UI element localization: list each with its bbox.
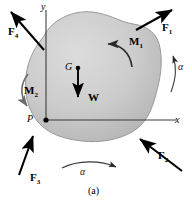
weight-label-W: W (88, 92, 99, 103)
force-vector-F3 (19, 136, 33, 175)
force-label-F4: F4 (8, 26, 18, 40)
origin-label-P: P (27, 114, 33, 124)
moment-label-M1: M1 (129, 36, 143, 50)
origin-point-P (43, 117, 48, 122)
force-label-F2: F2 (158, 150, 168, 164)
angular-acceleration-arc-right (171, 56, 175, 92)
force-label-F3: F3 (30, 172, 40, 186)
angular-acceleration-label-bottom: α (80, 167, 85, 177)
x-axis-label: x (175, 115, 179, 125)
angular-acceleration-arc-bottom (62, 162, 116, 168)
y-axis-label: y (41, 2, 45, 12)
center-of-gravity-label-G: G (65, 62, 72, 72)
force-label-F1: F1 (162, 22, 172, 36)
figure-caption: (a) (88, 186, 99, 196)
angular-acceleration-label-right: α (178, 62, 183, 72)
moment-label-M2: M2 (24, 85, 38, 99)
free-body-diagram-figure: F1 F2 F3 F4 M1 M2 W G P x y α α (a) (0, 0, 192, 203)
